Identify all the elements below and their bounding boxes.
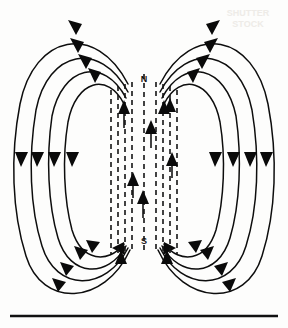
arrowhead-left-top-3 bbox=[78, 54, 92, 69]
arrowhead-left-top-4 bbox=[88, 68, 101, 83]
interior-arrow-6 bbox=[127, 172, 139, 186]
south-pole-label: S bbox=[141, 236, 147, 246]
arrowhead-left-mid-3 bbox=[48, 152, 61, 167]
watermark: SHUTTER STOCK bbox=[227, 8, 270, 29]
arrowhead-left-top-2 bbox=[70, 38, 84, 53]
watermark-line-2: STOCK bbox=[232, 19, 264, 29]
arrowhead-left-bottom-4 bbox=[86, 240, 100, 253]
field-line-right-3 bbox=[162, 72, 239, 269]
right-field-lines-group bbox=[158, 20, 274, 294]
interior-arrow-7 bbox=[137, 190, 149, 204]
arrowhead-right-mid-1 bbox=[209, 152, 222, 167]
arrowhead-left-top-1 bbox=[68, 20, 82, 35]
field-line-left-4 bbox=[65, 84, 124, 257]
field-line-left-3 bbox=[49, 72, 126, 269]
arrowhead-right-mid-3 bbox=[244, 152, 257, 167]
left-field-lines-group bbox=[14, 20, 130, 294]
arrowhead-right-mid-4 bbox=[260, 152, 273, 167]
field-line-canvas: SHUTTER STOCK bbox=[0, 0, 288, 328]
arrowhead-right-top-2 bbox=[204, 38, 218, 53]
arrowhead-right-bottom-4 bbox=[188, 240, 202, 253]
arrowhead-right-mid-2 bbox=[227, 152, 240, 167]
arrowhead-left-mid-4 bbox=[66, 152, 79, 167]
watermark-line-1: SHUTTER bbox=[227, 8, 270, 18]
magnetic-field-diagram: SHUTTER STOCK bbox=[0, 0, 288, 328]
north-pole-label: N bbox=[141, 74, 148, 84]
arrowhead-right-top-4 bbox=[187, 68, 200, 83]
interior-arrow-1 bbox=[118, 100, 130, 114]
arrowhead-right-top-1 bbox=[206, 20, 220, 35]
arrowhead-left-mid-1 bbox=[15, 152, 28, 167]
arrowhead-right-top-3 bbox=[196, 54, 210, 69]
arrowhead-left-mid-2 bbox=[31, 152, 44, 167]
